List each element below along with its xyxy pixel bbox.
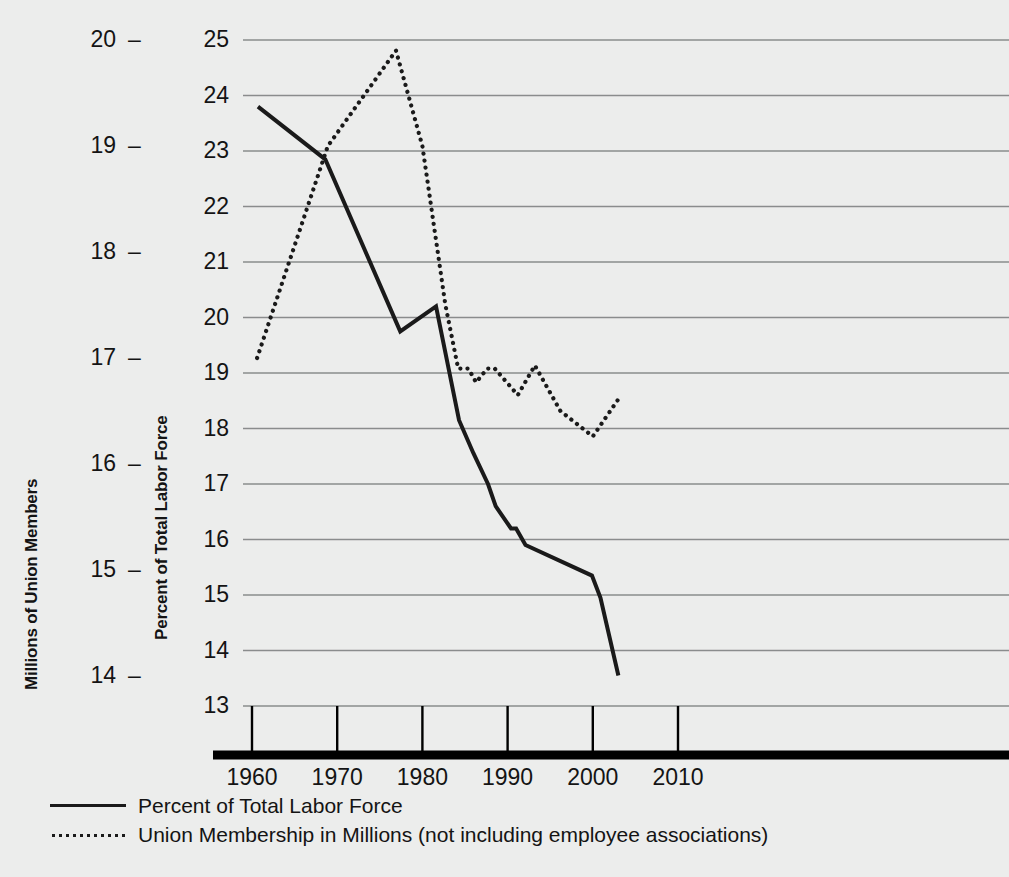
legend-label-millions: Union Membership in Millions (not includ… <box>138 822 768 848</box>
inner-axis-tick-label: 24 <box>189 84 229 107</box>
left-axis-tick-dash: – <box>128 346 141 369</box>
left-axis-tick-label: 20 <box>58 28 116 51</box>
x-axis-tick-label: 2010 <box>633 766 723 789</box>
x-axis-tick-label: 1960 <box>207 766 297 789</box>
inner-axis-tick-label: 22 <box>189 195 229 218</box>
left-axis-tick-dash: – <box>128 134 141 157</box>
inner-axis-tick-label: 16 <box>189 528 229 551</box>
series-line-percent <box>258 107 618 676</box>
x-axis-tick-label: 1990 <box>463 766 553 789</box>
x-axis-tick-label: 2000 <box>548 766 638 789</box>
left-axis-tick-dash: – <box>128 558 141 581</box>
series-line-millions <box>257 51 617 437</box>
left-axis-tick-label: 14 <box>58 664 116 687</box>
left-axis-tick-label: 15 <box>58 558 116 581</box>
solid-line-icon <box>50 804 126 807</box>
union-membership-chart: Millions of Union Members Percent of Tot… <box>0 0 1009 877</box>
inner-axis-tick-label: 20 <box>189 306 229 329</box>
inner-axis-tick-label: 23 <box>189 139 229 162</box>
inner-axis-tick-label: 17 <box>189 472 229 495</box>
x-axis <box>213 706 1009 755</box>
legend-entry: Percent of Total Labor Force <box>0 795 1009 824</box>
left-axis-tick-label: 16 <box>58 452 116 475</box>
inner-axis-tick-label: 15 <box>189 583 229 606</box>
series-layer <box>257 51 618 676</box>
left-axis-tick-dash: – <box>128 664 141 687</box>
gridlines <box>243 40 1009 706</box>
x-axis-tick-label: 1980 <box>377 766 467 789</box>
inner-axis-tick-label: 18 <box>189 417 229 440</box>
chart-legend: Percent of Total Labor Force Union Membe… <box>0 795 1009 853</box>
left-axis-tick-dash: – <box>128 452 141 475</box>
legend-entry: Union Membership in Millions (not includ… <box>0 824 1009 853</box>
left-axis-tick-label: 17 <box>58 346 116 369</box>
dotted-line-icon <box>50 834 126 837</box>
inner-axis-tick-label: 21 <box>189 250 229 273</box>
legend-swatch-solid <box>50 795 126 815</box>
left-axis-tick-label: 18 <box>58 240 116 263</box>
left-axis-tick-dash: – <box>128 28 141 51</box>
legend-label-percent: Percent of Total Labor Force <box>138 793 403 819</box>
left-axis-title: Millions of Union Members <box>22 479 42 690</box>
inner-axis-title: Percent of Total Labor Force <box>152 415 172 640</box>
left-axis-tick-label: 19 <box>58 134 116 157</box>
left-axis-tick-dash: – <box>128 240 141 263</box>
inner-axis-tick-label: 14 <box>189 639 229 662</box>
inner-axis-tick-label: 25 <box>189 28 229 51</box>
x-axis-tick-label: 1970 <box>292 766 382 789</box>
inner-axis-tick-label: 13 <box>189 694 229 717</box>
inner-axis-tick-label: 19 <box>189 361 229 384</box>
legend-swatch-dotted <box>50 824 126 844</box>
